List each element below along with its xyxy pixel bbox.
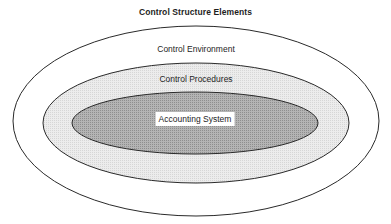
accounting-system-label: Accounting System [156,112,235,126]
control-procedures-label: Control Procedures [159,74,232,84]
control-environment-label: Control Environment [157,44,234,54]
